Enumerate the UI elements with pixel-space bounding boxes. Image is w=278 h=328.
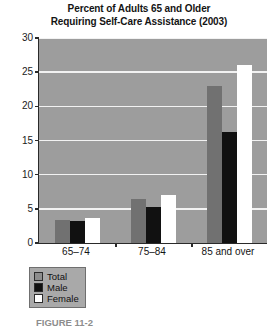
- legend-item-male[interactable]: Male: [34, 282, 79, 293]
- chart-legend: TotalMaleFemale: [29, 267, 86, 308]
- y-axis-tick: [35, 242, 39, 244]
- legend-label: Total: [47, 272, 67, 282]
- gridline: [39, 38, 267, 39]
- gridline: [39, 106, 267, 108]
- bar-female-group-2: [161, 195, 176, 243]
- x-axis-label-1: 65–74: [62, 247, 90, 257]
- gridline: [39, 71, 267, 73]
- chart-title-line-2: Requiring Self-Care Assistance (2003): [0, 16, 278, 29]
- legend-label: Male: [47, 283, 68, 293]
- y-axis-label: 20: [22, 101, 33, 111]
- x-axis-tick: [191, 243, 193, 247]
- legend-swatch-total-icon: [34, 272, 43, 281]
- y-axis-tick: [35, 208, 39, 210]
- bar-male-group-3: [222, 132, 237, 243]
- bar-female-group-3: [237, 65, 252, 243]
- bar-total-group-1: [55, 220, 70, 243]
- x-axis-label-2: 75–84: [138, 247, 166, 257]
- y-axis-tick: [35, 37, 39, 39]
- x-axis-tick: [115, 243, 117, 247]
- figure-caption: FIGURE 11-2: [36, 317, 278, 328]
- bar-total-group-3: [207, 86, 222, 243]
- y-axis-label: 15: [22, 136, 33, 146]
- legend-label: Female: [47, 294, 79, 304]
- bar-female-group-1: [85, 218, 100, 243]
- legend-item-female[interactable]: Female: [34, 293, 79, 304]
- legend-swatch-male-icon: [34, 283, 43, 292]
- y-axis-tick: [35, 174, 39, 176]
- legend-item-total[interactable]: Total: [34, 271, 79, 282]
- y-axis-label: 5: [27, 204, 33, 214]
- bar-male-group-2: [146, 207, 161, 243]
- chart-title: Percent of Adults 65 and Older Requiring…: [0, 3, 278, 28]
- x-axis-label-3: 85 and over: [202, 247, 255, 257]
- y-axis-label: 25: [22, 67, 33, 77]
- y-axis-label: 0: [27, 238, 33, 248]
- legend-swatch-female-icon: [34, 294, 43, 303]
- bar-total-group-2: [131, 199, 146, 243]
- chart-plot-area: [39, 38, 267, 243]
- y-axis-tick: [35, 71, 39, 73]
- y-axis-label: 30: [22, 33, 33, 43]
- chart-plot-frame: 051015202530: [38, 38, 267, 244]
- y-axis-tick: [35, 140, 39, 142]
- bar-male-group-1: [70, 221, 85, 243]
- y-axis-tick: [35, 106, 39, 108]
- y-axis-label: 10: [22, 170, 33, 180]
- chart-title-line-1: Percent of Adults 65 and Older: [0, 3, 278, 16]
